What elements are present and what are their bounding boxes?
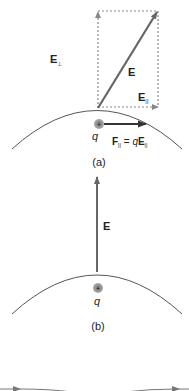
panel-a: E E⊥ E|| + q F|| = qE|| (a) xyxy=(12,11,182,168)
diagram-canvas: E E⊥ E|| + q F|| = qE|| (a) E + q (b) xyxy=(0,0,189,391)
force-equation: F|| = qE|| xyxy=(112,136,147,148)
label-e-a: E xyxy=(128,66,135,78)
charge-label-a: q xyxy=(92,130,99,142)
e-field-vector-a xyxy=(98,12,157,108)
charge-label-b: q xyxy=(94,295,101,307)
caption-b: (b) xyxy=(91,320,104,332)
label-e-parallel: E|| xyxy=(138,91,149,104)
charge-sign-a: + xyxy=(97,121,101,128)
label-e-b: E xyxy=(103,220,110,232)
label-e-perp: E⊥ xyxy=(50,53,62,67)
charge-sign-b: + xyxy=(96,285,100,292)
panel-c-partial xyxy=(0,386,189,391)
caption-a: (a) xyxy=(92,156,105,168)
panel-b: E + q (b) xyxy=(12,177,182,332)
